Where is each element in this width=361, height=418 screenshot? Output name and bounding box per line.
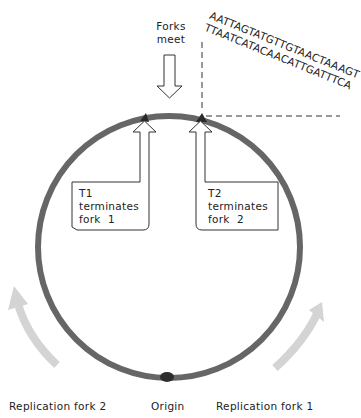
replication-fork-1-label: Replication fork 1	[216, 400, 313, 413]
forks-meet-label: Forks meet	[151, 20, 191, 46]
replication-fork-1-arrow	[275, 312, 318, 368]
t2-line2: terminates	[208, 200, 268, 213]
t2-line1: T2	[208, 187, 268, 200]
t1-line3: fork 1	[79, 213, 139, 226]
circular-chromosome	[38, 116, 300, 378]
replication-fork-2-arrow	[18, 304, 57, 365]
t1-label: T1 terminates fork 1	[79, 187, 139, 226]
t2-line3: fork 2	[208, 213, 268, 226]
forks-meet-arrow	[157, 55, 182, 98]
t1-line1: T1	[79, 187, 139, 200]
t1-line2: terminates	[79, 200, 139, 213]
origin-marker	[160, 372, 174, 382]
replication-fork-2-label: Replication fork 2	[9, 400, 106, 413]
t2-label: T2 terminates fork 2	[208, 187, 268, 226]
replication-fork-2-arrowhead	[8, 286, 28, 310]
forks-meet-line2: meet	[151, 33, 191, 46]
forks-meet-line1: Forks	[151, 20, 191, 33]
origin-label: Origin	[151, 400, 185, 413]
